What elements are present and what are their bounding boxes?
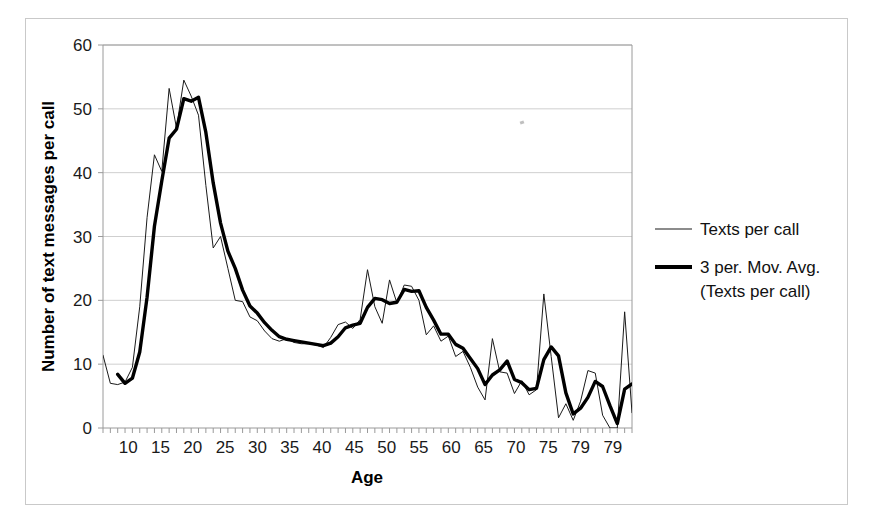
- x-tick-label-15: 79: [603, 438, 622, 457]
- y-tick-labels: 0102030405060: [73, 36, 92, 438]
- y-tick-label-20: 20: [73, 291, 92, 310]
- x-tick-marks: [103, 428, 632, 433]
- x-tick-label-6: 40: [313, 438, 332, 457]
- series-line-moving-average: [118, 97, 632, 423]
- y-tick-label-30: 30: [73, 228, 92, 247]
- y-tick-label-0: 0: [83, 419, 92, 438]
- y-axis-title: Number of text messages per call: [39, 101, 58, 372]
- chart-figure: 0102030405060 10152025303540455055606570…: [0, 0, 869, 532]
- y-tick-label-50: 50: [73, 100, 92, 119]
- x-tick-label-5: 35: [280, 438, 299, 457]
- x-axis-title: Age: [351, 468, 383, 487]
- y-tick-label-60: 60: [73, 36, 92, 55]
- data-series-group: [103, 80, 632, 428]
- chart-legend: Texts per call 3 per. Mov. Avg. (Texts p…: [655, 220, 820, 301]
- x-tick-label-10: 60: [442, 438, 461, 457]
- y-tick-label-10: 10: [73, 355, 92, 374]
- x-tick-label-0: 10: [119, 438, 138, 457]
- x-tick-label-9: 55: [410, 438, 429, 457]
- x-tick-labels: 10152025303540455055606570757979: [119, 438, 623, 457]
- x-tick-label-8: 50: [377, 438, 396, 457]
- legend-label-moving-average: 3 per. Mov. Avg.: [700, 258, 820, 277]
- x-tick-label-7: 45: [345, 438, 364, 457]
- y-tick-label-40: 40: [73, 164, 92, 183]
- x-tick-label-2: 20: [183, 438, 202, 457]
- x-tick-label-13: 75: [539, 438, 558, 457]
- chart-canvas: 0102030405060 10152025303540455055606570…: [0, 0, 869, 532]
- x-tick-label-1: 15: [151, 438, 170, 457]
- x-tick-label-4: 30: [248, 438, 267, 457]
- series-line-texts-per-call: [103, 80, 632, 428]
- x-tick-label-12: 70: [506, 438, 525, 457]
- legend-label-moving-average-line2: (Texts per call): [700, 282, 811, 301]
- legend-label-texts-per-call: Texts per call: [700, 220, 799, 239]
- x-tick-label-14: 79: [571, 438, 590, 457]
- x-tick-label-11: 65: [474, 438, 493, 457]
- x-tick-label-3: 25: [216, 438, 235, 457]
